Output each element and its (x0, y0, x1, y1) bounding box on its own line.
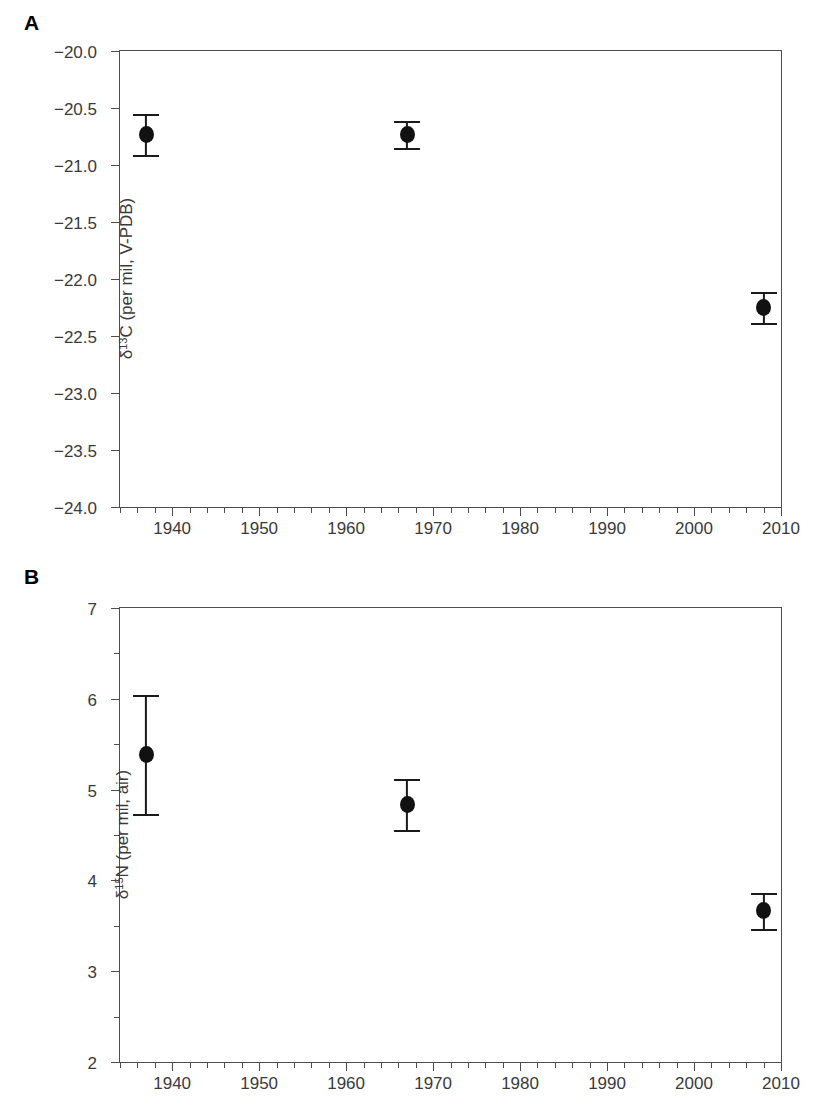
x-minor-tick-a-1982 (537, 507, 538, 513)
x-minor-tick-b-1938 (155, 1062, 156, 1068)
x-minor-tick-a-1996 (659, 507, 660, 513)
y-axis-title-b-rest: N (per mil, air) (113, 770, 132, 878)
y-tick-label-a-6: −23.0 (54, 386, 97, 403)
x-minor-tick-a-1974 (468, 507, 469, 513)
x-tick-label-b-7: 2010 (762, 1075, 800, 1092)
y-tick-label-b-5: 2 (88, 1055, 97, 1072)
x-tick-label-a-1: 1950 (240, 520, 278, 537)
plot-area-a: −20.0−20.5−21.0−21.5−22.0−22.5−23.0−23.5… (119, 50, 782, 508)
x-minor-tick-b-1952 (277, 1062, 278, 1068)
x-minor-tick-b-1962 (364, 1062, 365, 1068)
y-tick-label-b-1: 6 (88, 691, 97, 708)
x-tick-label-b-0: 1940 (153, 1075, 191, 1092)
x-tick-a-4 (520, 507, 521, 516)
x-tick-label-a-4: 1980 (501, 520, 539, 537)
error-cap-lower-a-1 (394, 148, 420, 150)
x-tick-b-3 (433, 1062, 434, 1071)
x-tick-label-b-2: 1960 (327, 1075, 365, 1092)
x-minor-tick-a-1964 (381, 507, 382, 513)
y-tick-label-a-4: −22.0 (54, 272, 97, 289)
x-minor-tick-b-1968 (416, 1062, 417, 1068)
marker-b-0 (139, 746, 154, 763)
x-minor-tick-b-1942 (190, 1062, 191, 1068)
error-cap-upper-b-1 (394, 779, 420, 781)
y-tick-label-a-2: −21.0 (54, 158, 97, 175)
y-minor-tick-b-0 (114, 653, 120, 654)
marker-a-1 (400, 126, 415, 143)
x-minor-tick-b-1988 (590, 1062, 591, 1068)
y-tick-b-1: 6 (111, 699, 120, 700)
x-minor-tick-b-1936 (137, 1062, 138, 1068)
x-minor-tick-b-1966 (398, 1062, 399, 1068)
x-minor-tick-a-1968 (416, 507, 417, 513)
x-minor-tick-b-1934 (120, 1062, 121, 1068)
x-tick-label-b-4: 1980 (501, 1075, 539, 1092)
panel-label-b: B (24, 566, 39, 587)
x-minor-tick-a-2006 (746, 507, 747, 513)
x-minor-tick-a-1978 (503, 507, 504, 513)
x-minor-tick-b-1944 (207, 1062, 208, 1068)
x-tick-label-a-0: 1940 (153, 520, 191, 537)
y-tick-label-a-3: −21.5 (54, 215, 97, 232)
x-tick-b-4 (520, 1062, 521, 1071)
x-minor-tick-a-1976 (485, 507, 486, 513)
x-tick-a-3 (433, 507, 434, 516)
x-tick-a-0 (172, 507, 173, 516)
x-minor-tick-b-1946 (224, 1062, 225, 1068)
x-minor-tick-b-1976 (485, 1062, 486, 1068)
x-minor-tick-a-1984 (555, 507, 556, 513)
x-minor-tick-b-1996 (659, 1062, 660, 1068)
x-minor-tick-a-1954 (294, 507, 295, 513)
x-minor-tick-a-1948 (242, 507, 243, 513)
y-tick-label-a-5: −22.5 (54, 329, 97, 346)
error-cap-upper-b-0 (133, 695, 159, 697)
y-tick-a-8: −24.0 (111, 507, 120, 508)
x-tick-b-2 (346, 1062, 347, 1071)
x-minor-tick-b-1982 (537, 1062, 538, 1068)
y-tick-label-a-0: −20.0 (54, 44, 97, 61)
x-minor-tick-b-1974 (468, 1062, 469, 1068)
error-cap-lower-b-1 (394, 830, 420, 832)
y-axis-title-a-delta: δ (117, 350, 136, 359)
plot-area-b: 76543219401950196019701980199020002010 δ… (119, 607, 782, 1063)
x-minor-tick-a-1936 (137, 507, 138, 513)
x-minor-tick-a-1972 (451, 507, 452, 513)
x-minor-tick-a-1944 (207, 507, 208, 513)
error-cap-upper-a-1 (394, 121, 420, 123)
y-tick-a-1: −20.5 (111, 108, 120, 109)
x-tick-label-b-5: 1990 (588, 1075, 626, 1092)
x-tick-label-a-6: 2000 (675, 520, 713, 537)
y-axis-title-a: δ13C (per mil, V-PDB) (117, 129, 136, 429)
panel-label-a: A (24, 12, 39, 33)
x-tick-label-a-2: 1960 (327, 520, 365, 537)
x-minor-tick-a-1962 (364, 507, 365, 513)
x-minor-tick-a-1934 (120, 507, 121, 513)
x-minor-tick-a-2008 (764, 507, 765, 513)
x-minor-tick-a-1994 (642, 507, 643, 513)
marker-a-2 (756, 299, 771, 316)
x-tick-label-a-7: 2010 (762, 520, 800, 537)
x-minor-tick-a-1942 (190, 507, 191, 513)
x-minor-tick-b-1986 (572, 1062, 573, 1068)
x-minor-tick-a-2004 (729, 507, 730, 513)
x-tick-label-b-6: 2000 (675, 1075, 713, 1092)
x-minor-tick-b-1958 (329, 1062, 330, 1068)
x-tick-b-1 (259, 1062, 260, 1071)
x-tick-a-2 (346, 507, 347, 516)
y-tick-b-5: 2 (111, 1062, 120, 1063)
x-tick-label-a-3: 1970 (414, 520, 452, 537)
y-tick-label-a-1: −20.5 (54, 101, 97, 118)
y-minor-tick-b-4 (114, 1017, 120, 1018)
x-minor-tick-b-1964 (381, 1062, 382, 1068)
y-tick-a-0: −20.0 (111, 51, 120, 52)
plot-inner-a: −20.0−20.5−21.0−21.5−22.0−22.5−23.0−23.5… (120, 51, 781, 507)
x-tick-a-6 (694, 507, 695, 516)
x-minor-tick-a-1958 (329, 507, 330, 513)
x-tick-b-6 (694, 1062, 695, 1071)
error-cap-lower-a-2 (751, 323, 777, 325)
x-minor-tick-b-2002 (711, 1062, 712, 1068)
x-tick-b-0 (172, 1062, 173, 1071)
x-minor-tick-a-1966 (398, 507, 399, 513)
x-minor-tick-b-1956 (311, 1062, 312, 1068)
y-tick-b-4: 3 (111, 971, 120, 972)
